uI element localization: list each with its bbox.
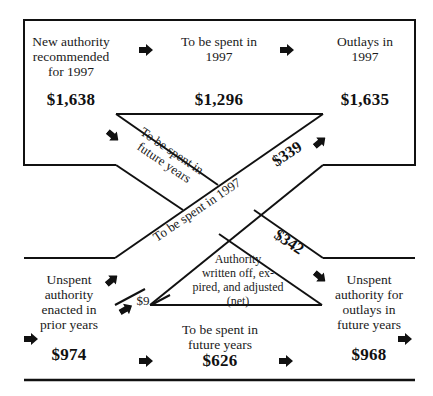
written-off-line-4: (net): [183, 294, 293, 308]
unspent-future-line-2: authority for: [326, 287, 412, 302]
outlays-1997-line-1: Outlays in: [320, 34, 410, 49]
written-off-label: Authority written off, ex- pired, and ad…: [183, 252, 293, 308]
unspent-future-line-1: Unspent: [326, 272, 412, 287]
new-authority-line-3: for 1997: [26, 64, 116, 79]
spent-future-label: To be spent in future years: [170, 322, 270, 352]
unspent-future-label: Unspent authority for outlays in future …: [326, 272, 412, 332]
unspent-prior-line-1: Unspent: [28, 272, 110, 287]
spent-1997-label: To be spent in 1997: [164, 34, 274, 64]
unspent-prior-line-3: enacted in: [28, 302, 110, 317]
arrow-right-icon: [24, 333, 38, 345]
unspent-prior-line-2: authority: [28, 287, 110, 302]
new-authority-value: $1,638: [26, 90, 116, 110]
unspent-future-line-4: future years: [326, 317, 412, 332]
unspent-prior-value: $974: [28, 345, 110, 365]
unspent-prior-label: Unspent authority enacted in prior years: [28, 272, 110, 332]
outlays-1997-line-2: 1997: [320, 49, 410, 64]
spent-future-line-2: future years: [170, 337, 270, 352]
unspent-prior-line-4: prior years: [28, 317, 110, 332]
arrow-right-icon: [139, 355, 153, 367]
spent-1997-line-2: 1997: [164, 49, 274, 64]
written-off-line-1: Authority: [183, 252, 293, 266]
unspent-future-line-3: outlays in: [326, 302, 412, 317]
unspent-future-value: $968: [326, 345, 412, 365]
arrow-right-icon: [398, 333, 412, 345]
arrow-right-icon: [280, 44, 294, 56]
new-authority-line-1: New authority: [26, 34, 116, 49]
spent-1997-line-1: To be spent in: [164, 34, 274, 49]
written-off-line-2: written off, ex-: [183, 266, 293, 280]
outlays-1997-label: Outlays in 1997: [320, 34, 410, 64]
spent-future-value: $626: [170, 351, 270, 371]
new-authority-line-2: recommended: [26, 49, 116, 64]
arrow-right-icon: [139, 44, 153, 56]
arrow-right-icon: [279, 355, 293, 367]
outlays-1997-value: $1,635: [320, 90, 410, 110]
spent-future-line-1: To be spent in: [170, 322, 270, 337]
written-off-line-3: pired, and adjusted: [183, 280, 293, 294]
spent-1997-value: $1,296: [164, 90, 274, 110]
written-off-value: $9: [133, 294, 153, 308]
new-authority-label: New authority recommended for 1997: [26, 34, 116, 79]
